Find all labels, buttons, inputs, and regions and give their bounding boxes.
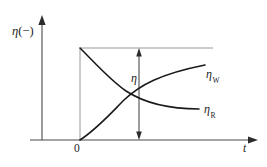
eta-arrow-up-head	[136, 48, 142, 57]
curve-label-eta-r: ηR	[204, 103, 215, 118]
x-axis	[30, 136, 258, 143]
curve-label-eta-w-subscript: W	[212, 76, 219, 85]
y-axis-label: η(−)	[12, 25, 34, 38]
y-axis-arrowhead	[38, 15, 45, 25]
x-axis-label: t	[243, 143, 246, 155]
eta-measure-label: η	[131, 72, 137, 84]
curve-label-eta-r-subscript: R	[210, 111, 215, 120]
eta-arrow-down-head	[136, 132, 142, 141]
curve-eta-w	[80, 65, 205, 140]
figure-container: η(−) 0 t η ηW ηR	[0, 0, 267, 167]
x-axis-arrowhead	[248, 136, 258, 143]
curve-label-eta-w: ηW	[206, 68, 219, 83]
y-axis-unit: (−)	[18, 24, 33, 38]
y-axis	[38, 15, 45, 140]
eta-double-arrow	[136, 48, 142, 140]
origin-label: 0	[74, 143, 80, 155]
